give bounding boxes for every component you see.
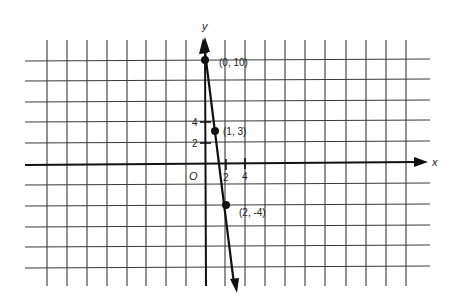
point-label-2-neg4: (2, -4) <box>239 207 266 218</box>
x-tick-label-2: 2 <box>223 172 229 183</box>
y-tick-label-4: 4 <box>192 117 198 128</box>
y-tick-label-2: 2 <box>192 138 198 149</box>
origin-label: O <box>189 170 198 182</box>
point-1-3 <box>211 127 219 135</box>
point-label-1-3: (1, 3) <box>223 126 246 137</box>
line-arrow-bottom-icon <box>230 278 239 293</box>
point-label-0-10: (0, 10) <box>219 57 248 68</box>
y-axis-label: y <box>201 20 209 32</box>
x-axis-label: x <box>431 156 438 168</box>
coordinate-plane: (0, 10) (1, 3) (2, -4) 4 2 2 4 O x y <box>0 0 461 299</box>
y-axis <box>205 48 206 286</box>
axes <box>25 48 418 286</box>
point-2-neg4 <box>222 201 230 209</box>
x-axis <box>25 162 418 165</box>
x-axis-arrow-icon <box>414 157 428 167</box>
point-0-10 <box>201 56 209 64</box>
x-tick-label-4: 4 <box>242 171 248 182</box>
